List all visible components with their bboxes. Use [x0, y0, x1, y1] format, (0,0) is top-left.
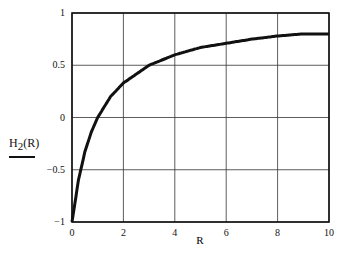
y-tick-label: 0	[60, 112, 65, 123]
y-tick-label: −1	[54, 216, 65, 227]
x-axis-label: R	[196, 234, 204, 246]
x-tick-label: 6	[224, 227, 229, 238]
x-tick-label: 10	[324, 227, 334, 238]
y-tick-label: 1	[60, 7, 65, 18]
chart: 10.50−0.5−1 0246810 R	[0, 0, 342, 258]
y-label-arg: (R)	[23, 136, 39, 150]
data-line	[72, 34, 329, 222]
y-axis-ticks: 10.50−0.5−1	[47, 7, 65, 227]
x-tick-label: 4	[172, 227, 177, 238]
grid-lines	[72, 13, 329, 222]
x-tick-label: 2	[121, 227, 126, 238]
y-label-underline	[9, 156, 35, 158]
y-label-main: H	[9, 136, 18, 150]
x-tick-label: 0	[70, 227, 75, 238]
y-tick-label: 0.5	[53, 59, 66, 70]
y-tick-label: −0.5	[47, 164, 65, 175]
y-axis-label: H2(R)	[9, 136, 39, 152]
x-tick-label: 8	[275, 227, 280, 238]
